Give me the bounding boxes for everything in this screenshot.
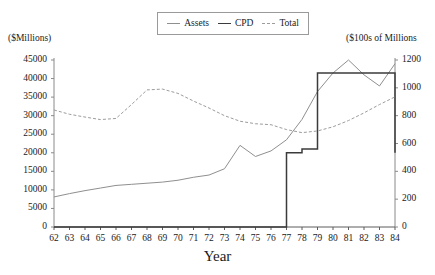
legend-item-assets: Assets: [167, 19, 209, 29]
left-axis-tick-label: 15000: [9, 165, 47, 175]
legend-label-total: Total: [279, 19, 298, 29]
left-axis-tick-label: 5000: [9, 202, 47, 212]
legend-label-cpd: CPD: [235, 19, 253, 29]
x-axis-tick-label: 84: [385, 233, 405, 243]
chart-legend: Assets CPD Total: [157, 12, 309, 35]
left-axis-tick-label: 25000: [9, 128, 47, 138]
left-axis-tick-label: 10000: [9, 184, 47, 194]
left-axis-unit-label: ($Millions): [8, 33, 51, 43]
right-axis-tick-label: 600: [402, 138, 435, 148]
legend-swatch-cpd-icon: [218, 23, 231, 24]
right-axis-tick-label: 400: [402, 165, 435, 175]
left-axis-tick-label: 45000: [9, 54, 47, 64]
right-axis-tick-label: 800: [402, 110, 435, 120]
right-axis-tick-label: 0: [402, 221, 435, 231]
left-axis-tick-label: 0: [9, 221, 47, 231]
x-axis-title: Year: [0, 248, 435, 265]
legend-swatch-total-icon: [262, 23, 275, 24]
legend-swatch-assets-icon: [167, 23, 180, 24]
right-axis-tick-label: 1000: [402, 82, 435, 92]
legend-item-cpd: CPD: [218, 19, 253, 29]
left-axis-tick-label: 20000: [9, 147, 47, 157]
left-axis-tick-label: 40000: [9, 73, 47, 83]
left-axis-tick-label: 35000: [9, 91, 47, 101]
left-axis-tick-label: 30000: [9, 110, 47, 120]
series-line-cpd: [54, 73, 395, 227]
legend-label-assets: Assets: [184, 19, 209, 29]
right-axis-tick-label: 200: [402, 193, 435, 203]
right-axis-tick-label: 1200: [402, 54, 435, 64]
right-axis-unit-label: ($100s of Millions: [346, 33, 417, 43]
series-line-total: [54, 89, 395, 133]
chart-container: ($Millions) ($100s of Millions Assets CP…: [0, 0, 435, 275]
series-line-assets: [54, 60, 395, 197]
legend-item-total: Total: [262, 19, 298, 29]
